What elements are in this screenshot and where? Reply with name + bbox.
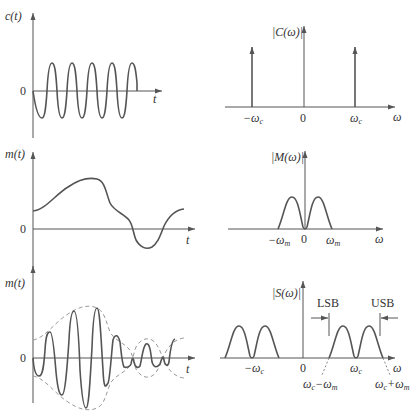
spectrum-pos-band [329, 326, 383, 358]
tick-zero: 0 [300, 111, 306, 125]
tick-wm: ωm [326, 233, 340, 248]
tick-zero: 0 [300, 361, 306, 375]
x-axis-label: t [186, 362, 190, 376]
panel-message-spectrum: |M(ω)| −ωm 0 ωm ω [228, 150, 383, 248]
panel-carrier-time: c(t) 0 t [5, 9, 162, 138]
y-axis-label: m(t) [5, 276, 25, 290]
lsb-leader [322, 358, 329, 375]
y-axis-label: c(t) [5, 9, 22, 23]
y-axis-label: |M(ω)| [271, 150, 304, 164]
panel-modulated-time: m(t) 0 t [5, 266, 195, 410]
tick-wc: ωc [350, 111, 362, 126]
panel-modulated-spectrum: |S(ω)| LSB USB −ωc 0 ωc ω ωc−ωm ωc+ωm [220, 281, 410, 392]
y-axis-label: m(t) [5, 147, 25, 161]
zero-label: 0 [20, 222, 26, 236]
modulation-figure: c(t) 0 t |C(ω)| −ωc 0 ωc ω m(t) 0 t |M(ω… [0, 0, 411, 415]
usb-leader [383, 358, 390, 375]
lsb-label: LSB [317, 296, 339, 310]
tick-neg-wm: −ωm [268, 233, 291, 248]
lsb-edge-label: ωc−ωm [303, 377, 338, 392]
usb-edge-label: ωc+ωm [375, 377, 410, 392]
tick-neg-wc: −ωc [243, 111, 264, 126]
y-axis-label: |C(ω)| [272, 25, 303, 39]
y-axis-label: |S(ω)| [272, 286, 301, 300]
tick-zero: 0 [301, 232, 307, 246]
spectrum-neg-band [225, 326, 279, 358]
x-axis-label: t [186, 233, 190, 247]
panel-message-time: m(t) 0 t [5, 147, 195, 268]
x-axis-label: ω [375, 232, 383, 246]
x-axis-label: t [153, 92, 157, 106]
zero-label: 0 [20, 84, 26, 98]
usb-label: USB [371, 296, 394, 310]
tick-wc: ωc [350, 361, 362, 376]
tick-neg-wc: −ωc [244, 361, 265, 376]
panel-carrier-spectrum: |C(ω)| −ωc 0 ωc ω [225, 25, 401, 126]
x-axis-label: ω [393, 110, 401, 124]
zero-label: 0 [20, 351, 26, 365]
message-wave [33, 178, 184, 248]
x-axis-label: ω [393, 361, 401, 375]
